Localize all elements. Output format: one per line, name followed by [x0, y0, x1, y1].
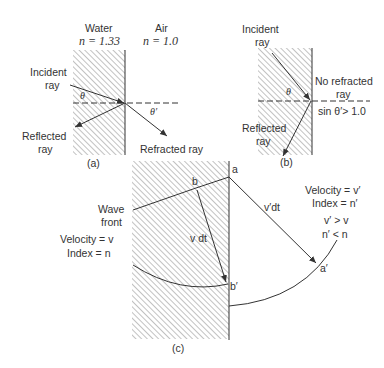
panel-a: [70, 50, 178, 155]
point-b-prime: b′: [230, 280, 238, 292]
reflected-label-b-1: Reflected: [242, 122, 286, 134]
reflected-label-a-2: ray: [38, 143, 53, 155]
theta-a: θ: [80, 90, 85, 102]
caption-c: (c): [172, 342, 184, 354]
velocity-right: Velocity = v′: [305, 184, 360, 196]
v-prime-dt-label: v′dt: [264, 201, 280, 213]
incident-label-b-2: ray: [255, 36, 270, 48]
point-b: b: [192, 175, 198, 187]
panel-b: [258, 48, 370, 156]
medium-n-region: [132, 161, 229, 339]
caption-a: (a): [87, 157, 100, 169]
reflected-label-a-1: Reflected: [22, 130, 66, 142]
point-a: a: [232, 163, 238, 175]
water-index: n = 1.33: [79, 35, 120, 47]
index-right: Index = n′: [312, 197, 357, 209]
air-index: n = 1.0: [143, 35, 178, 47]
caption-b: (b): [280, 156, 293, 168]
air-label: Air: [155, 22, 168, 34]
wave-front-label-2: front: [101, 216, 122, 228]
incident-label-a-1: Incident: [30, 66, 67, 78]
point-a-prime: a′: [320, 262, 328, 274]
condition-n: n′ < n: [322, 228, 348, 240]
theta-prime-a: θ′: [150, 106, 157, 118]
v-prime-dt-ray: [229, 177, 316, 263]
water-region-a: [73, 50, 125, 155]
no-refracted-label-2: ray: [336, 88, 351, 100]
refracted-ray-a: [125, 103, 167, 136]
index-left: Index = n: [67, 247, 111, 259]
refraction-diagram: Water n = 1.33 Air n = 1.0 Incident ray …: [0, 0, 384, 368]
no-refracted-label-1: No refracted: [315, 75, 373, 87]
condition-v: v′ > v: [324, 214, 348, 226]
condition-label: sin θ′> 1.0: [318, 105, 366, 117]
reflected-label-b-2: ray: [256, 135, 271, 147]
incident-label-b-1: Incident: [242, 23, 279, 35]
theta-b: θ: [286, 86, 291, 98]
velocity-left: Velocity = v: [60, 233, 113, 245]
wave-front-label-1: Wave: [98, 203, 124, 215]
v-dt-label: v dt: [190, 232, 207, 244]
refracted-label-a: Refracted ray: [140, 143, 203, 155]
incident-label-a-2: ray: [45, 79, 60, 91]
water-label: Water: [85, 22, 113, 34]
